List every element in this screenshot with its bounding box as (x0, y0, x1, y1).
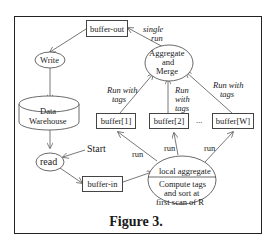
run-label-2: run (164, 144, 175, 153)
buffer-w-label: buffer[W] (216, 116, 250, 126)
figure-caption: Figure 3. (0, 214, 272, 230)
buffer-2-node: buffer[2] (149, 113, 189, 129)
warehouse-label-2: Warehouse (29, 117, 67, 126)
buffer-w-node: buffer[W] (212, 113, 254, 129)
warehouse-label-1: Data (40, 107, 56, 116)
single-run-label-2: run (151, 34, 163, 43)
rwt-left-label-2: tags (112, 95, 126, 104)
buffer-out-label: buffer-out (90, 24, 124, 34)
rwt-mid-label-3: tags (175, 104, 189, 113)
read-node-label: read (40, 157, 57, 166)
local-label-3: first scan of R (156, 198, 204, 207)
buffer-1-label: buffer[1] (101, 116, 132, 126)
buffer-2-label: buffer[2] (154, 116, 185, 126)
aggregate-label-3: Merge (156, 67, 178, 76)
local-aggregate-label: local aggregate (159, 167, 211, 176)
buffer-1-node: buffer[1] (96, 113, 136, 129)
write-node-label: Write (40, 56, 59, 65)
rwt-right-label-2: tags (220, 90, 234, 99)
buffer-out-node: buffer-out (86, 20, 128, 37)
ellipsis-label: ... (196, 116, 202, 125)
run-label-1: run (132, 150, 143, 159)
buffer-in-node: buffer-in (82, 176, 123, 192)
run-label-3: run (204, 144, 215, 153)
buffer-in-label: buffer-in (88, 179, 118, 189)
start-label: Start (87, 144, 106, 153)
